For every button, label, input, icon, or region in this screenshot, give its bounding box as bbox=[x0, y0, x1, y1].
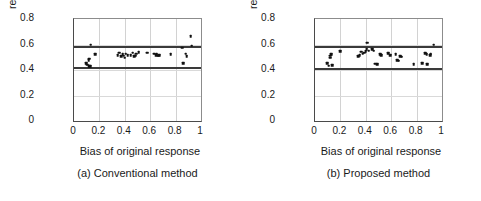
y-gridline bbox=[315, 45, 442, 46]
scatter-point bbox=[367, 49, 370, 52]
scatter-point bbox=[137, 51, 140, 54]
y-axis-title-a: Bias of resulting response bbox=[6, 0, 46, 8]
y-axis-title-line2-a: response bbox=[6, 0, 19, 9]
scatter-point bbox=[158, 54, 161, 57]
scatter-point bbox=[389, 54, 392, 57]
y-tick-label: 0.4 bbox=[0, 64, 34, 74]
y-tick-label: 0.2 bbox=[235, 90, 275, 100]
scatter-point bbox=[331, 64, 334, 67]
x-tick-label: 1 bbox=[185, 126, 215, 136]
y-gridline bbox=[315, 96, 442, 97]
scatter-point bbox=[169, 53, 172, 56]
y-tick-label: 0.6 bbox=[0, 39, 34, 49]
plot-area-a bbox=[73, 18, 202, 122]
scatter-point bbox=[327, 64, 330, 67]
scatter-point bbox=[126, 54, 129, 57]
y-axis-title-b: Bias of resulting response bbox=[247, 0, 287, 8]
scatter-point bbox=[117, 54, 120, 57]
y-tick-label: 0.8 bbox=[0, 13, 34, 23]
scatter-point bbox=[413, 63, 416, 66]
scatter-point bbox=[426, 63, 429, 66]
y-gridline bbox=[315, 70, 442, 71]
scatter-point bbox=[372, 49, 375, 52]
scatter-point bbox=[123, 56, 126, 59]
scatter-point bbox=[182, 62, 185, 65]
panel-caption-b: (b) Proposed method bbox=[271, 167, 481, 179]
reference-line bbox=[315, 46, 442, 48]
y-tick-label: 0.2 bbox=[0, 90, 34, 100]
x-tick-label: 1 bbox=[426, 126, 456, 136]
y-tick-label: 0 bbox=[235, 115, 275, 125]
reference-line bbox=[315, 68, 442, 70]
scatter-point bbox=[88, 57, 91, 60]
y-tick-label: 0 bbox=[0, 115, 34, 125]
y-gridline bbox=[74, 96, 201, 97]
y-tick-label: 0.6 bbox=[235, 39, 275, 49]
scatter-point bbox=[397, 60, 400, 63]
x-axis-title-a: Bias of original response bbox=[40, 145, 240, 157]
scatter-point bbox=[366, 41, 369, 44]
scatter-point bbox=[89, 65, 92, 68]
scatter-point bbox=[146, 51, 149, 54]
scatter-point bbox=[380, 54, 383, 57]
plot-area-b bbox=[314, 18, 443, 122]
scatter-point bbox=[394, 53, 397, 56]
scatter-point bbox=[185, 55, 188, 58]
scatter-point bbox=[430, 52, 433, 55]
y-tick-label: 0.8 bbox=[235, 13, 275, 23]
scatter-point bbox=[191, 44, 194, 47]
panel-caption-a: (a) Conventional method bbox=[30, 167, 245, 179]
y-tick-label: 0.4 bbox=[235, 64, 275, 74]
scatter-point bbox=[432, 43, 435, 46]
scatter-point bbox=[189, 35, 192, 38]
panel-conventional-method: Bias of resulting response Bias of origi… bbox=[0, 0, 240, 201]
scatter-point bbox=[181, 46, 184, 49]
scatter-point bbox=[425, 53, 428, 56]
scatter-point bbox=[94, 53, 97, 56]
scatter-point bbox=[376, 63, 379, 66]
scatter-point bbox=[89, 44, 92, 47]
reference-line bbox=[74, 67, 201, 69]
scatter-point bbox=[421, 62, 424, 65]
y-gridline bbox=[74, 45, 201, 46]
panel-proposed-method: Bias of resulting response Bias of origi… bbox=[241, 0, 481, 201]
scatter-point bbox=[330, 53, 333, 56]
scatter-point bbox=[339, 50, 342, 53]
scatter-point bbox=[400, 55, 403, 58]
y-axis-title-line2-b: response bbox=[247, 0, 260, 9]
figure-two-scatter-panels: Bias of resulting response Bias of origi… bbox=[0, 0, 481, 201]
x-axis-title-b: Bias of original response bbox=[281, 145, 481, 157]
scatter-point bbox=[329, 56, 332, 59]
y-gridline bbox=[74, 70, 201, 71]
